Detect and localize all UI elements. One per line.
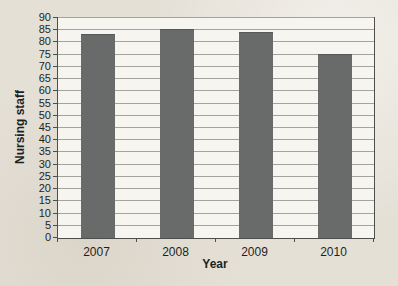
y-tick-mark-10: [53, 213, 57, 214]
bar-2007: [81, 34, 115, 238]
y-tick-label-35: 35: [29, 145, 51, 157]
y-tick-label-0: 0: [29, 231, 51, 243]
y-tick-label-5: 5: [29, 219, 51, 231]
y-tick-mark-40: [53, 139, 57, 140]
bar-2009: [239, 32, 273, 238]
y-tick-mark-15: [53, 200, 57, 201]
y-tick-label-30: 30: [29, 158, 51, 170]
y-tick-label-80: 80: [29, 35, 51, 47]
bar-2010: [318, 54, 352, 238]
y-tick-label-60: 60: [29, 84, 51, 96]
x-tick-mark-0: [57, 238, 58, 242]
y-tick-mark-90: [53, 17, 57, 18]
y-tick-mark-60: [53, 90, 57, 91]
y-tick-mark-65: [53, 78, 57, 79]
y-tick-mark-50: [53, 115, 57, 116]
y-tick-label-10: 10: [29, 207, 51, 219]
gridline-85: [58, 29, 374, 30]
y-tick-label-40: 40: [29, 133, 51, 145]
y-tick-label-70: 70: [29, 60, 51, 72]
y-tick-label-45: 45: [29, 121, 51, 133]
scanned-page: Nursing staff 05101520253035404550556065…: [0, 0, 398, 286]
y-tick-label-65: 65: [29, 72, 51, 84]
y-tick-label-90: 90: [29, 11, 51, 23]
x-tick-mark-4: [373, 238, 374, 242]
plot-area: [57, 17, 375, 239]
y-tick-label-85: 85: [29, 23, 51, 35]
y-tick-label-75: 75: [29, 48, 51, 60]
x-axis-title: Year: [57, 257, 373, 271]
y-tick-mark-20: [53, 188, 57, 189]
y-tick-mark-25: [53, 176, 57, 177]
y-tick-mark-5: [53, 225, 57, 226]
y-tick-label-25: 25: [29, 170, 51, 182]
x-tick-mark-3: [294, 238, 295, 242]
y-tick-mark-30: [53, 164, 57, 165]
y-tick-mark-70: [53, 66, 57, 67]
y-tick-label-55: 55: [29, 97, 51, 109]
y-tick-mark-80: [53, 41, 57, 42]
y-tick-mark-45: [53, 127, 57, 128]
x-tick-mark-1: [136, 238, 137, 242]
y-tick-mark-75: [53, 54, 57, 55]
gridline-90: [58, 17, 374, 18]
y-tick-label-50: 50: [29, 109, 51, 121]
y-tick-label-15: 15: [29, 194, 51, 206]
y-tick-mark-35: [53, 151, 57, 152]
y-tick-mark-55: [53, 103, 57, 104]
y-tick-label-20: 20: [29, 182, 51, 194]
y-axis-title: Nursing staff: [13, 90, 27, 164]
y-tick-mark-85: [53, 29, 57, 30]
x-tick-mark-2: [215, 238, 216, 242]
bar-2008: [160, 29, 194, 238]
